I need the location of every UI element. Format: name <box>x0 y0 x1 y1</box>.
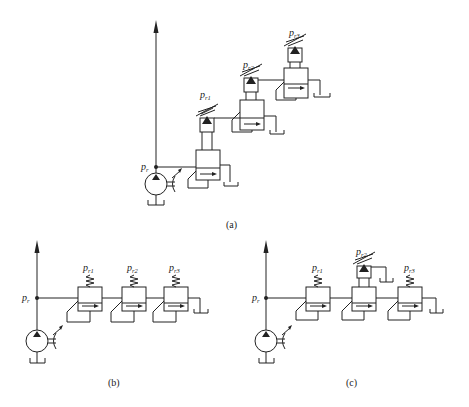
valve-1-label: pr1 <box>82 262 94 274</box>
system-pressure-label: pr <box>251 292 260 304</box>
panel-c: pr pr1 <box>251 240 443 389</box>
relief-valve-1 <box>188 104 240 188</box>
caption-a: (a) <box>226 219 237 231</box>
pump-icon <box>255 325 292 363</box>
arrow-up-icon <box>35 240 40 253</box>
caption-c: (c) <box>346 377 357 389</box>
caption-b: (b) <box>108 377 120 389</box>
valve-3-label: pr3 <box>288 27 301 39</box>
relief-valve-3 <box>276 34 330 100</box>
valve-3-label: pr3 <box>403 262 416 274</box>
panel-a: pr <box>140 20 330 231</box>
valve-2-label: pr2 <box>242 59 255 71</box>
spring-icon <box>314 275 322 287</box>
valve-2-label: pr2 <box>126 262 139 274</box>
arrow-up-icon <box>154 20 159 33</box>
system-pressure-label: pr <box>21 292 30 304</box>
adjustable-spring-icon <box>198 106 216 116</box>
spring-icon <box>130 275 138 287</box>
spring-icon <box>406 275 414 287</box>
valve-1-label: pr1 <box>311 262 323 274</box>
pump-icon <box>26 325 63 363</box>
spring-icon <box>86 275 94 287</box>
valve-1-label: pr1 <box>199 89 211 101</box>
system-pressure-label: pr <box>140 161 149 173</box>
pump-icon <box>145 168 182 205</box>
tank-icon <box>194 309 208 313</box>
valve-2-label: pr2 <box>355 246 368 258</box>
arrow-up-icon <box>264 240 269 253</box>
valve-3-label: pr3 <box>168 262 181 274</box>
panel-b: pr pr1 <box>21 240 208 389</box>
hydraulic-circuit-diagram: pr <box>0 0 469 407</box>
spring-icon <box>172 275 180 287</box>
